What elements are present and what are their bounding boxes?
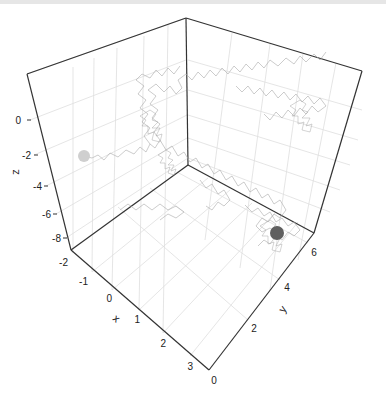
x-tick: 0 bbox=[106, 293, 112, 304]
y-tick: 0 bbox=[211, 375, 217, 386]
z-tick: -6 bbox=[42, 209, 51, 220]
y-tick: 2 bbox=[251, 323, 257, 334]
x-tick: -2 bbox=[59, 257, 68, 268]
start-marker bbox=[78, 150, 90, 162]
grid-right-wall bbox=[188, 33, 362, 290]
box-edges bbox=[27, 18, 362, 370]
y-tick: 4 bbox=[284, 282, 290, 293]
end-marker bbox=[270, 226, 284, 240]
x-tick: 1 bbox=[134, 314, 140, 325]
y-axis-label: y bbox=[276, 303, 289, 315]
z-tick: -4 bbox=[33, 181, 42, 192]
x-tick: 3 bbox=[187, 361, 193, 372]
z-axis-label: z bbox=[9, 169, 21, 175]
z-tick: -2 bbox=[22, 150, 31, 161]
3d-plot: 0 -2 -4 -6 -8 z -2 -1 0 1 2 3 x 0 2 4 6 … bbox=[0, 0, 386, 401]
y-axis: 0 2 4 6 y bbox=[211, 247, 317, 386]
x-axis-label: x bbox=[111, 312, 123, 325]
x-axis: -2 -1 0 1 2 3 x bbox=[59, 257, 193, 372]
z-tick: 0 bbox=[15, 115, 21, 126]
z-tick: -8 bbox=[52, 233, 61, 244]
y-tick: 6 bbox=[311, 247, 317, 258]
x-tick: 2 bbox=[160, 338, 166, 349]
x-tick: -1 bbox=[79, 276, 88, 287]
